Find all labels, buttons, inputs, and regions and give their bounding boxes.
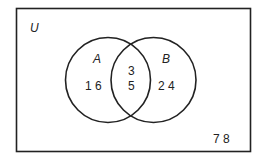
intersection-element-top: 3 xyxy=(128,64,135,78)
set-a-only-elements: 1 6 xyxy=(85,79,102,93)
universe-label: U xyxy=(30,21,39,35)
set-b-label: B xyxy=(162,52,170,66)
intersection-element-bottom: 5 xyxy=(128,79,135,93)
set-b-circle xyxy=(111,38,196,123)
set-a-label: A xyxy=(92,52,101,66)
set-b-only-elements: 2 4 xyxy=(158,79,175,93)
venn-diagram: U A B 1 6 3 5 2 4 7 8 xyxy=(0,0,263,160)
outside-elements: 7 8 xyxy=(213,132,230,146)
set-a-circle xyxy=(66,38,151,123)
